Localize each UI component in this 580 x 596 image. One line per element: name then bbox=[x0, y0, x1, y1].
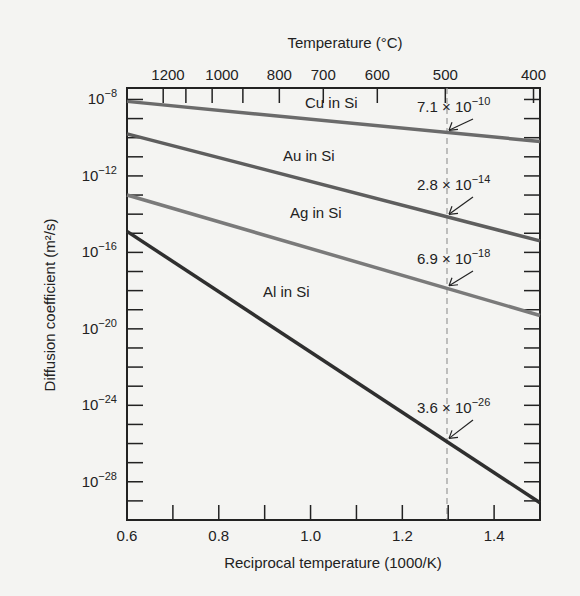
series-label-cu: Cu in Si bbox=[305, 94, 358, 111]
y-tick-label: 10−12 bbox=[82, 164, 117, 184]
x-tick-label: 1.4 bbox=[484, 527, 505, 544]
series-label-al: Al in Si bbox=[263, 283, 310, 300]
x-tick-label: 0.8 bbox=[208, 527, 229, 544]
y-tick-label: 10−20 bbox=[82, 317, 117, 337]
y-axis-ticks-right bbox=[524, 99, 540, 500]
y-tick-label: 10−28 bbox=[82, 470, 117, 490]
y-tick-label: 10−8 bbox=[88, 87, 117, 107]
y-tick-label: 10−24 bbox=[82, 393, 117, 413]
top-tick-label: 800 bbox=[267, 66, 292, 83]
top-axis-title: Temperature (°C) bbox=[287, 34, 402, 51]
y-tick-labels: 10−810−1210−1610−2010−2410−28 bbox=[82, 87, 117, 489]
y-axis-ticks-left bbox=[127, 99, 143, 500]
value-annotation: 7.1 × 10−10 bbox=[417, 95, 490, 115]
x-axis-ticks-bottom bbox=[173, 505, 494, 520]
value-annotation: 3.6 × 10−26 bbox=[417, 396, 490, 416]
value-annotation: 2.8 × 10−14 bbox=[417, 173, 490, 193]
x-axis-title: Reciprocal temperature (1000/K) bbox=[224, 554, 442, 571]
series-line bbox=[127, 231, 540, 502]
diffusion-chart: 10−810−1210−1610−2010−2410−28 0.60.81.01… bbox=[0, 0, 580, 596]
series-label-ag: Ag in Si bbox=[290, 204, 342, 221]
x-tick-label: 1.0 bbox=[300, 527, 321, 544]
top-tick-label: 600 bbox=[365, 66, 390, 83]
x-tick-label: 1.2 bbox=[392, 527, 413, 544]
top-tick-label: 1200 bbox=[151, 66, 184, 83]
x-tick-label: 0.6 bbox=[117, 527, 138, 544]
top-tick-label: 700 bbox=[311, 66, 336, 83]
top-tick-label: 500 bbox=[433, 66, 458, 83]
x-tick-labels: 0.60.81.01.21.4 bbox=[117, 527, 505, 544]
y-axis-title: Diffusion coefficient (m²/s) bbox=[41, 219, 58, 392]
y-tick-label: 10−16 bbox=[82, 240, 117, 260]
value-annotations: 7.1 × 10−102.8 × 10−146.9 × 10−183.6 × 1… bbox=[417, 95, 490, 438]
top-tick-label: 1000 bbox=[205, 66, 238, 83]
series-label-au: Au in Si bbox=[283, 147, 335, 164]
top-tick-label: 400 bbox=[521, 66, 546, 83]
value-annotation: 6.9 × 10−18 bbox=[417, 247, 490, 267]
top-tick-labels: 12001000800700600500400 bbox=[151, 66, 546, 83]
